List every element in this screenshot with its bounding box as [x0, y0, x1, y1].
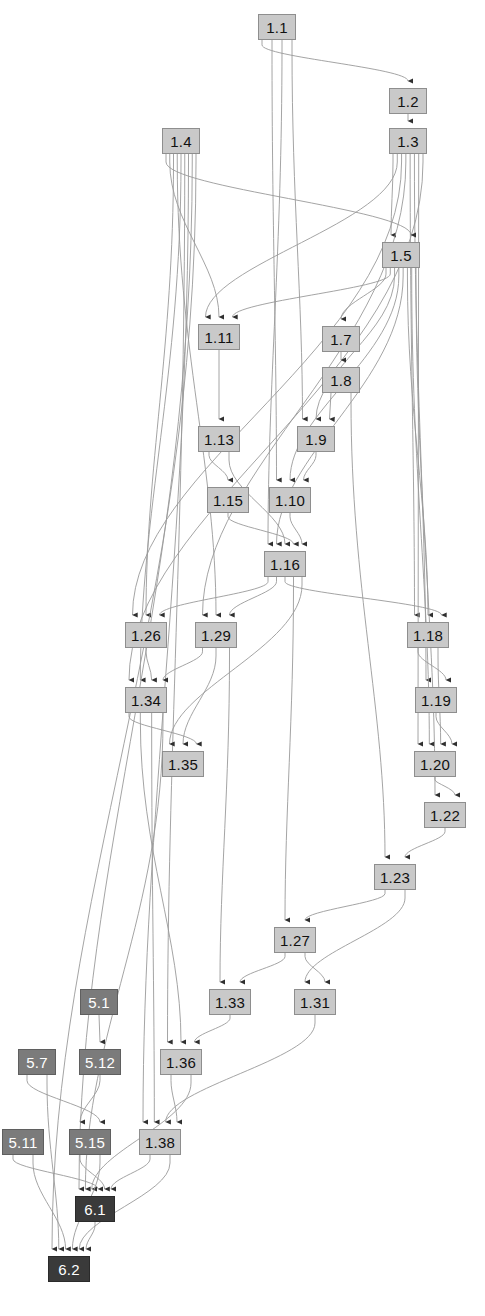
graph-node-1-9[interactable]: 1.9 [297, 426, 335, 452]
graph-edge-1-33-to-1-36 [195, 1015, 231, 1042]
graph-node-5-7[interactable]: 5.7 [18, 1049, 56, 1075]
graph-edge-1-19-to-1-20 [436, 713, 452, 744]
graph-node-5-1[interactable]: 5.1 [80, 989, 118, 1015]
graph-node-5-11[interactable]: 5.11 [2, 1129, 44, 1155]
graph-node-6-2[interactable]: 6.2 [48, 1256, 90, 1282]
graph-node-label: 6.2 [58, 1262, 79, 1277]
graph-node-label: 1.2 [397, 94, 418, 109]
graph-edge-1-22-to-1-23 [405, 828, 445, 857]
graph-node-1-13[interactable]: 1.13 [198, 426, 240, 452]
graph-node-label: 5.11 [9, 1135, 38, 1150]
graph-node-1-38[interactable]: 1.38 [139, 1129, 181, 1155]
graph-node-1-23[interactable]: 1.23 [374, 864, 416, 890]
graph-edge-1-26-to-1-34 [146, 648, 152, 680]
graph-edge-1-4-to-1-26 [146, 154, 174, 615]
graph-edge-1-3-to-1-19 [414, 154, 426, 680]
graph-edge-1-8-to-1-23 [351, 393, 385, 857]
graph-edge-1-5-to-1-20 [412, 268, 430, 744]
graph-node-5-15[interactable]: 5.15 [69, 1129, 111, 1155]
graph-node-label: 1.35 [168, 757, 198, 772]
graph-edge-1-16-to-1-26 [160, 577, 269, 615]
graph-node-1-29[interactable]: 1.29 [195, 622, 237, 648]
graph-node-1-1[interactable]: 1.1 [258, 14, 296, 40]
graph-edge-1-16-to-1-27 [285, 577, 294, 920]
graph-edge-5-1-to-5-12 [99, 1015, 100, 1042]
graph-node-label: 1.16 [270, 557, 300, 572]
graph-node-1-19[interactable]: 1.19 [415, 687, 457, 713]
graph-edge-5-11-to-6-2 [33, 1155, 66, 1249]
graph-node-label: 1.29 [201, 628, 231, 643]
graph-edge-1-1-to-1-16 [268, 40, 282, 544]
graph-edge-5-7-to-5-15 [27, 1075, 100, 1122]
graph-node-1-7[interactable]: 1.7 [322, 326, 360, 352]
graph-node-label: 1.38 [145, 1135, 175, 1150]
graph-node-1-35[interactable]: 1.35 [162, 751, 204, 777]
graph-node-1-22[interactable]: 1.22 [424, 802, 466, 828]
graph-node-1-31[interactable]: 1.31 [294, 989, 336, 1015]
graph-node-label: 1.9 [305, 432, 326, 447]
graph-node-1-8[interactable]: 1.8 [322, 367, 360, 393]
graph-node-label: 1.20 [420, 757, 450, 772]
graph-edge-1-38-to-6-1 [111, 1155, 150, 1189]
graph-node-label: 1.1 [266, 20, 287, 35]
graph-node-label: 1.3 [397, 134, 418, 149]
graph-node-1-2[interactable]: 1.2 [389, 88, 427, 114]
graph-edge-1-16-to-1-29 [230, 577, 277, 615]
graph-edge-1-5-to-1-18 [407, 268, 428, 615]
graph-edge-1-29-to-1-35 [183, 648, 216, 744]
graph-node-1-3[interactable]: 1.3 [389, 128, 427, 154]
graph-edge-1-23-to-1-31 [305, 890, 405, 982]
graph-edge-1-5-to-1-11 [233, 268, 391, 317]
graph-node-5-12[interactable]: 5.12 [79, 1049, 121, 1075]
graph-edge-1-23-to-1-27 [305, 890, 385, 920]
graph-edge-1-1-to-1-9 [292, 40, 303, 419]
graph-edge-5-7-to-6-2 [47, 1075, 59, 1249]
graph-node-label: 5.12 [85, 1055, 115, 1070]
graph-node-1-5[interactable]: 1.5 [382, 242, 420, 268]
graph-edge-1-13-to-1-15 [209, 452, 228, 480]
graph-node-label: 1.31 [300, 995, 330, 1010]
graph-node-label: 1.5 [390, 248, 411, 263]
diagram-canvas: 1.11.21.31.41.51.71.81.111.91.131.151.10… [0, 0, 485, 1316]
graph-node-label: 1.19 [421, 693, 451, 708]
graph-edge-1-10-to-1-16 [290, 513, 302, 544]
graph-node-label: 1.8 [330, 373, 351, 388]
graph-node-label: 1.26 [131, 628, 161, 643]
graph-node-label: 1.10 [275, 493, 305, 508]
graph-node-label: 1.4 [170, 134, 191, 149]
graph-node-1-10[interactable]: 1.10 [269, 487, 311, 513]
graph-node-label: 1.23 [380, 870, 410, 885]
graph-node-label: 1.18 [413, 628, 443, 643]
graph-edge-1-15-to-1-16 [228, 513, 294, 544]
graph-node-label: 1.34 [131, 693, 161, 708]
graph-node-1-4[interactable]: 1.4 [162, 128, 200, 154]
graph-node-1-18[interactable]: 1.18 [407, 622, 449, 648]
graph-node-label: 5.7 [26, 1055, 47, 1070]
graph-node-label: 1.13 [204, 432, 234, 447]
graph-node-1-33[interactable]: 1.33 [209, 989, 251, 1015]
graph-node-1-36[interactable]: 1.36 [160, 1049, 202, 1075]
graph-node-1-16[interactable]: 1.16 [264, 551, 306, 577]
graph-edge-1-29-to-1-34 [163, 648, 203, 680]
graph-edge-1-1-to-1-10 [272, 40, 277, 480]
graph-node-label: 6.1 [84, 1202, 105, 1217]
graph-node-1-27[interactable]: 1.27 [274, 927, 316, 953]
graph-edge-1-4-to-1-5 [166, 154, 411, 235]
graph-node-1-15[interactable]: 1.15 [207, 487, 249, 513]
graph-node-1-34[interactable]: 1.34 [125, 687, 167, 713]
graph-edge-1-29-to-1-33 [220, 648, 230, 982]
graph-node-label: 1.11 [205, 330, 234, 345]
graph-node-label: 1.7 [330, 332, 351, 347]
graph-edge-1-27-to-1-33 [240, 953, 285, 982]
graph-node-1-20[interactable]: 1.20 [414, 751, 456, 777]
graph-edge-1-1-to-1-2 [262, 40, 408, 81]
graph-node-label: 1.22 [430, 808, 460, 823]
graph-node-label: 1.33 [215, 995, 245, 1010]
graph-node-label: 1.15 [213, 493, 243, 508]
graph-node-6-1[interactable]: 6.1 [75, 1196, 115, 1222]
graph-node-label: 1.36 [166, 1055, 196, 1070]
graph-edge-1-8-to-1-9 [330, 393, 332, 419]
graph-node-1-26[interactable]: 1.26 [125, 622, 167, 648]
graph-node-1-11[interactable]: 1.11 [198, 324, 240, 350]
graph-node-label: 5.1 [88, 995, 109, 1010]
